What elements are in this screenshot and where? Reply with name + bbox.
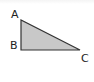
vertex-label-b: B [10, 40, 18, 51]
triangle-figure: A B C [0, 0, 94, 82]
vertex-label-c: C [81, 53, 89, 64]
triangle-abc [21, 20, 80, 50]
vertex-label-a: A [11, 9, 19, 20]
